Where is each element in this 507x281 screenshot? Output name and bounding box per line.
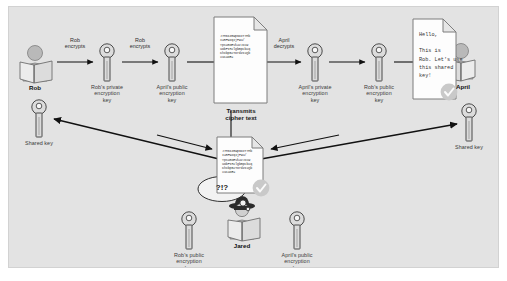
cipher-text-top: J7M6IZ8Wp6OIT7Mb IaRFwzqIjPWu/ YpsU8OEVk… (220, 34, 266, 60)
arrow-left-into-note (157, 135, 212, 149)
caption-rob-private-key: Rob's private encryption key (81, 84, 133, 103)
message-plaintext: Hello, This is Rob. Let's use this share… (419, 31, 459, 80)
key-icon-april-private (308, 44, 322, 81)
caption-shared-key-right: Shared key (447, 144, 491, 150)
cipher-text-middle: J7M6IZ8Wp6OIT7Mb IaRFwzqIjPWu/ YpsU8OEVk… (222, 149, 264, 175)
jared-thought-text: ?!? (202, 183, 242, 192)
key-icon-jared-april-public (290, 212, 304, 249)
caption-jared-rob-public-key: Rob's public encryption key (163, 252, 215, 268)
arrow-label-rob-encrypts-2: Rob encrypts (120, 37, 160, 50)
key-icon-shared-left (32, 100, 46, 137)
arrow-label-april-decrypts: April decrypts (264, 37, 304, 50)
key-icon-april-public (165, 44, 179, 81)
arrow-to-rob-shared-key (54, 119, 219, 159)
arrow-label-rob-encrypts-1: Rob encrypts (55, 37, 95, 50)
caption-april-public-key: April's public encryption key (146, 84, 198, 103)
key-icon-jared-rob-public (182, 212, 196, 249)
arrow-to-april-shared-key (261, 124, 457, 159)
label-rob: Rob (15, 84, 55, 91)
key-icon-shared-right (462, 104, 476, 141)
caption-shared-key-left: Shared key (17, 140, 61, 146)
key-icon-rob-private (100, 44, 114, 81)
cipher-note-top (214, 17, 267, 103)
key-icon-rob-public (372, 44, 386, 81)
rob-avatar-icon (20, 46, 52, 84)
caption-jared-april-public-key: April's public encryption key (271, 252, 323, 268)
transmits-cipher-text-label: Transmits cipher text (209, 107, 273, 122)
diagram-canvas: Rob encrypts Rob encrypts April decrypts… (8, 6, 499, 268)
caption-rob-public-key: Rob's public encryption key (353, 84, 405, 103)
label-jared: Jared (222, 242, 262, 249)
caption-april-private-key: April's private encryption key (289, 84, 341, 103)
label-april: April (443, 83, 483, 90)
